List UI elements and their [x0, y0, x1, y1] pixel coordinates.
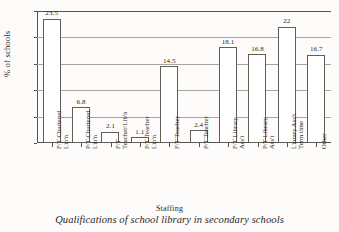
bar-value-label: 23.5	[45, 9, 58, 17]
x-tick-label-line: Lib'n	[92, 111, 99, 149]
x-tick-mark	[316, 143, 317, 147]
x-tick-label-line: P/T Library	[261, 117, 268, 149]
bar-chart-figure: % of schools 0510152025 23.56.82.11.114.…	[0, 0, 339, 232]
x-tick-label-line: P/T Teacher	[202, 116, 209, 149]
figure-caption: Qualifications of school library in seco…	[0, 214, 339, 225]
bar-value-label: 18.1	[222, 38, 235, 46]
x-tick-mark	[111, 143, 112, 147]
x-tick-label-line: Library Ass't	[290, 114, 297, 149]
x-tick-label-line: F/T Library	[231, 117, 238, 149]
x-tick-label-line: F/T Chartered	[55, 111, 62, 149]
x-tick-label: P/T Teacher	[202, 116, 209, 149]
x-tick-label: P/T TeacherLib'n	[143, 116, 158, 149]
x-tick-label-line: Term time	[298, 114, 305, 149]
x-tick-label: F/T Teacher	[173, 116, 180, 149]
y-tick-mark	[34, 143, 37, 144]
x-tick-mark	[228, 143, 229, 147]
x-tick-label: F/T LibraryAss't	[231, 117, 246, 149]
x-tick-label: Library Ass'tTerm time	[290, 114, 305, 149]
bar-value-label: 16.7	[310, 45, 323, 53]
bar-slot: 16.7	[302, 11, 331, 143]
x-tick-label-line: Ass't	[239, 117, 246, 149]
x-tick-label: F/TTeacher/Lib'n	[114, 111, 129, 149]
x-tick-mark	[258, 143, 259, 147]
plot-area: 23.56.82.11.114.52.418.116.82216.7	[37, 11, 331, 143]
bar-value-label: 16.8	[251, 45, 264, 53]
x-tick-mark	[287, 143, 288, 147]
x-tick-label-line: P/T Chartered	[84, 111, 91, 149]
x-tick-label-line: F/T Teacher	[173, 116, 180, 149]
x-tick-label: F/T CharteredLib'n	[55, 111, 70, 149]
x-tick-label-line: F/T	[114, 139, 121, 149]
x-tick-label-line: Lib'n	[62, 111, 69, 149]
y-axis-title: % of schools	[2, 31, 12, 77]
x-tick-label-line: Lib'n	[151, 116, 158, 149]
x-tick-mark	[169, 143, 170, 147]
x-tick-mark	[81, 143, 82, 147]
bar-value-label: 6.8	[77, 98, 86, 106]
x-axis-title: Staffing	[0, 204, 339, 213]
x-tick-label: P/T CharteredLib'n	[84, 111, 99, 149]
x-tick-label-line: Teacher/Lib'n	[121, 111, 128, 149]
bar-value-label: 22	[283, 17, 290, 25]
x-tick-label: Other	[320, 133, 327, 149]
bars-layer: 23.56.82.11.114.52.418.116.82216.7	[37, 11, 331, 143]
x-tick-mark	[199, 143, 200, 147]
x-tick-mark	[140, 143, 141, 147]
x-tick-label-line: Other	[320, 133, 327, 149]
x-tick-label-line: Ass't	[268, 117, 275, 149]
x-tick-mark	[52, 143, 53, 147]
bar[interactable]	[307, 55, 325, 143]
bar-value-label: 14.5	[163, 57, 176, 65]
x-tick-label-line: P/T Teacher	[143, 116, 150, 149]
x-tick-label: P/T LibraryAss't	[261, 117, 276, 149]
